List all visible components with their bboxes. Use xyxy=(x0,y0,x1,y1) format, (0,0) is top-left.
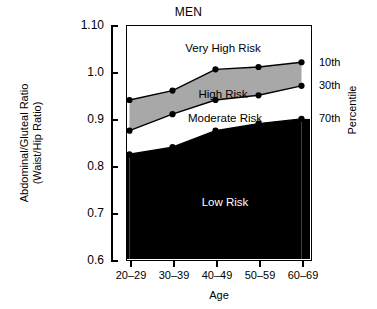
data-point-70th-4 xyxy=(298,116,304,122)
zone-label-high-risk: High Risk xyxy=(168,88,278,100)
y-tick-label: 0.8 xyxy=(58,159,104,173)
percentile-label-70th: 70th xyxy=(319,112,353,124)
y-tick-mark xyxy=(111,213,118,215)
data-point-30th-4 xyxy=(298,83,304,89)
y-tick-label: 1.0 xyxy=(58,65,104,79)
percentile-label-30th: 30th xyxy=(319,79,353,91)
y-axis-title-line1: Abdominal/Gluteal Ratio xyxy=(18,84,30,203)
data-point-10th-2 xyxy=(212,66,218,72)
zone-label-moderate-risk: Moderate Risk xyxy=(160,112,290,124)
zone-label-very-high-risk: Very High Risk xyxy=(158,42,288,54)
y-tick-label: 0.6 xyxy=(58,253,104,267)
x-axis-title: Age xyxy=(126,289,312,301)
right-axis-title: Percentile xyxy=(346,55,358,165)
band-low-risk xyxy=(127,119,310,259)
y-axis-title-line2: (Waist/Hip Ratio) xyxy=(31,43,44,243)
x-tick-mark xyxy=(259,261,261,267)
plot-svg xyxy=(127,26,310,259)
zone-label-low-risk: Low Risk xyxy=(160,196,290,208)
y-tick-label: 1.10 xyxy=(58,18,104,32)
y-tick-mark xyxy=(111,260,118,262)
x-tick-mark xyxy=(130,261,132,267)
data-point-70th-1 xyxy=(169,144,175,150)
plot-area xyxy=(126,25,312,261)
x-tick-label: 60–69 xyxy=(277,269,329,281)
risk-chart: MEN Abdominal/Gluteal Ratio (Waist/Hip R… xyxy=(0,0,377,309)
x-tick-mark xyxy=(216,261,218,267)
y-tick-mark xyxy=(111,72,118,74)
y-tick-mark xyxy=(111,119,118,121)
chart-title: MEN xyxy=(0,5,377,19)
data-point-10th-4 xyxy=(298,59,304,65)
y-tick-mark xyxy=(111,25,118,27)
data-point-10th-3 xyxy=(255,64,261,70)
y-tick-label: 0.7 xyxy=(58,206,104,220)
data-point-70th-2 xyxy=(212,128,218,134)
x-tick-mark xyxy=(173,261,175,267)
y-tick-mark xyxy=(111,166,118,168)
x-tick-mark xyxy=(302,261,304,267)
y-axis-title: Abdominal/Gluteal Ratio (Waist/Hip Ratio… xyxy=(18,43,44,243)
y-tick-label: 0.9 xyxy=(58,112,104,126)
y-axis-line xyxy=(111,25,113,261)
percentile-label-10th: 10th xyxy=(319,56,353,68)
